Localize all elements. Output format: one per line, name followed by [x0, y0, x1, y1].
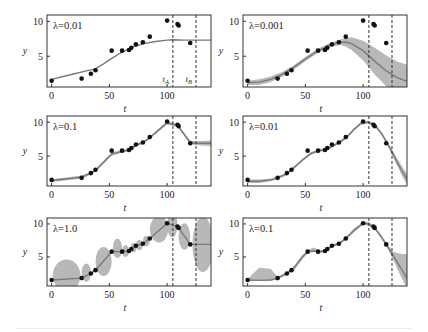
data-point — [176, 226, 181, 231]
x-tick-label: 100 — [356, 189, 371, 200]
y-tick-label: 5 — [38, 51, 43, 62]
data-point — [129, 247, 134, 252]
data-point — [79, 76, 84, 81]
data-point — [343, 34, 348, 39]
panel-row3-left: 050100510tyλ=1.0 — [22, 213, 214, 313]
data-point — [141, 140, 146, 145]
data-point — [89, 71, 94, 76]
data-point — [305, 148, 310, 153]
data-point — [384, 242, 389, 247]
x-tick-label: 50 — [300, 289, 310, 300]
data-point — [330, 42, 335, 47]
data-point — [147, 135, 152, 140]
data-point — [325, 46, 330, 51]
y-axis-label: y — [22, 45, 28, 56]
data-point — [316, 249, 321, 254]
panel-row1-right: 050100510tyλ=0.001 — [218, 15, 407, 114]
data-point — [289, 68, 294, 73]
y-axis-label: y — [22, 145, 28, 156]
data-point — [245, 278, 250, 283]
x-tick-label: 0 — [245, 289, 250, 300]
data-point — [305, 48, 310, 53]
data-point — [49, 178, 54, 183]
data-point — [165, 18, 170, 23]
data-point — [361, 18, 366, 23]
y-tick-label: 5 — [38, 251, 43, 262]
data-point — [134, 42, 139, 47]
x-tick-label: 100 — [356, 90, 371, 101]
x-tick-label: 0 — [49, 289, 54, 300]
data-point — [49, 278, 54, 283]
x-tick-label: 0 — [49, 189, 54, 200]
data-point — [316, 148, 321, 153]
data-point — [120, 148, 125, 153]
data-point — [343, 236, 348, 241]
panel-lambda-label: λ=0.001 — [249, 20, 284, 31]
data-point — [129, 46, 134, 51]
data-point — [89, 171, 94, 176]
data-point — [245, 78, 250, 83]
data-point — [109, 249, 114, 254]
data-point — [337, 241, 342, 246]
data-point — [147, 236, 152, 241]
data-point — [120, 249, 125, 254]
x-axis-label: t — [124, 302, 127, 313]
data-point — [165, 119, 170, 124]
y-tick-label: 10 — [33, 218, 43, 229]
y-tick-label: 10 — [229, 117, 239, 128]
x-axis-label: t — [320, 103, 323, 114]
data-point — [245, 178, 250, 183]
data-point — [79, 176, 84, 181]
data-point — [343, 135, 348, 140]
data-point — [109, 148, 114, 153]
data-point — [176, 124, 181, 129]
x-tick-label: 0 — [245, 189, 250, 200]
panel-row1-left: 050100510tyλ=0.01tAtB — [22, 15, 211, 114]
data-point — [305, 249, 310, 254]
y-tick-label: 5 — [38, 151, 43, 162]
data-point — [337, 140, 342, 145]
data-point — [89, 271, 94, 276]
data-point — [330, 142, 335, 147]
panel-row3-right: 050100510tyλ=0.1 — [218, 218, 407, 313]
y-tick-label: 5 — [234, 151, 239, 162]
figure-grid: 050100510tyλ=0.01tAtB050100510tyλ=0.0010… — [0, 0, 428, 332]
data-point — [316, 48, 321, 53]
data-point — [120, 48, 125, 53]
panel-row2-left: 050100510tyλ=0.1 — [22, 116, 211, 213]
data-point — [325, 247, 330, 252]
x-tick-label: 50 — [104, 90, 114, 101]
data-point — [285, 71, 290, 76]
data-point — [361, 119, 366, 124]
data-point — [49, 78, 54, 83]
marker-label-ta: tA — [162, 74, 169, 85]
data-point — [337, 40, 342, 45]
bottom-divider — [15, 328, 411, 329]
x-tick-label: 50 — [104, 289, 114, 300]
data-point — [289, 268, 294, 273]
x-tick-label: 100 — [160, 289, 175, 300]
data-point — [361, 221, 366, 226]
y-tick-label: 5 — [234, 251, 239, 262]
data-point — [285, 271, 290, 276]
data-point — [141, 241, 146, 246]
data-point — [372, 226, 377, 231]
x-tick-label: 50 — [300, 90, 310, 101]
data-point — [141, 40, 146, 45]
data-point — [93, 268, 98, 273]
data-point — [330, 243, 335, 248]
uncertainty-band — [113, 238, 122, 258]
y-tick-label: 10 — [229, 16, 239, 27]
y-axis-label: y — [22, 246, 28, 257]
data-point — [147, 34, 152, 39]
data-point — [165, 221, 170, 226]
data-point — [372, 23, 377, 28]
y-tick-label: 5 — [234, 51, 239, 62]
data-point — [188, 242, 193, 247]
x-axis-label: t — [124, 103, 127, 114]
panel-lambda-label: λ=1.0 — [53, 223, 77, 234]
data-point — [289, 167, 294, 172]
data-point — [275, 176, 280, 181]
data-point — [188, 41, 193, 46]
data-point — [275, 276, 280, 281]
